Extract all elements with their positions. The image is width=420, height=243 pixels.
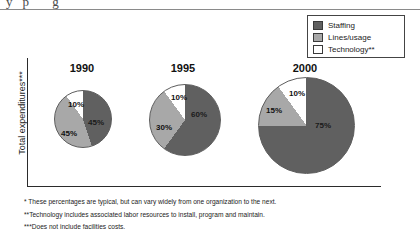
pie-slice-label-1995-technology: 10% — [171, 93, 187, 102]
pie-slice-label-2000-lines: 15% — [266, 106, 282, 115]
footnote-3: ***Does not include facilities costs. — [24, 221, 414, 234]
pie-slice-label-1995-staffing: 60% — [191, 110, 207, 119]
footnote-2: **Technology includes associated labor r… — [24, 209, 414, 222]
pie-group-1995: 1995 60% 30% 10% — [131, 62, 235, 184]
pie-slice-label-1990-technology: 10% — [68, 100, 84, 109]
pie-slice-label-1995-lines: 30% — [156, 123, 172, 132]
chart-legend: Staffing Lines/usage Technology** — [307, 15, 405, 58]
legend-item-lines-usage: Lines/usage — [313, 32, 399, 43]
pie-year-label-1990: 1990 — [36, 62, 128, 74]
pie-year-label-1995: 1995 — [131, 62, 235, 74]
pie-slice-label-1990-staffing: 45% — [88, 118, 104, 127]
header-divider — [0, 9, 420, 10]
pie-slice-label-2000-staffing: 75% — [315, 121, 331, 130]
footnote-1: * These percentages are typical, but can… — [24, 196, 414, 209]
legend-item-staffing: Staffing — [313, 20, 399, 31]
pie-chart-2000 — [258, 77, 355, 174]
legend-swatch-staffing — [313, 21, 323, 30]
y-axis-label: Total expenditures*** — [17, 48, 27, 178]
chart-figure: yp g Staffing Lines/usage Technology** T… — [0, 0, 420, 243]
legend-item-technology: Technology** — [313, 44, 399, 55]
legend-swatch-technology — [313, 45, 323, 54]
y-axis-line — [27, 58, 28, 186]
legend-label-technology: Technology** — [328, 45, 375, 54]
footnotes: * These percentages are typical, but can… — [24, 196, 414, 234]
legend-swatch-lines-usage — [313, 33, 323, 42]
pie-group-1990: 1990 45% 45% 10% — [36, 62, 128, 182]
pie-slice-label-2000-technology: 10% — [289, 89, 305, 98]
legend-label-lines-usage: Lines/usage — [328, 33, 371, 42]
pie-group-2000: 2000 75% 15% 10% — [240, 62, 370, 187]
pie-slice-label-1990-lines: 45% — [61, 129, 77, 138]
pie-year-label-2000: 2000 — [240, 62, 370, 74]
legend-label-staffing: Staffing — [328, 21, 355, 30]
